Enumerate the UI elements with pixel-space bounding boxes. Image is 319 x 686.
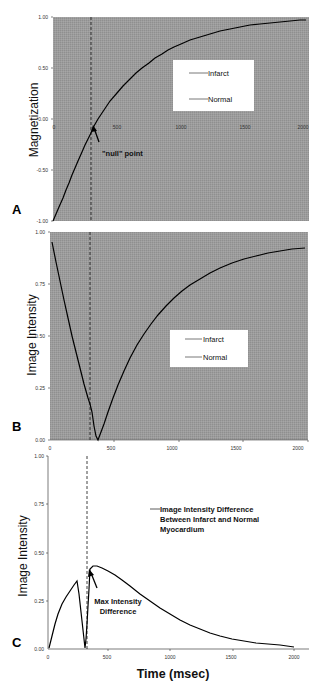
max-difference-annotation: Max Intensity Difference bbox=[88, 569, 143, 616]
chart-c-xtick: 0 bbox=[47, 654, 50, 660]
chart-b-xtick: 0 bbox=[49, 445, 52, 451]
chart-c-ylabel: Image Intensity bbox=[16, 515, 30, 596]
null-point-label: "null" point bbox=[102, 149, 143, 158]
chart-b-xtick: 1500 bbox=[230, 445, 241, 451]
chart-c-ytick: 0.75 bbox=[34, 501, 44, 507]
chart-c-ytick: 1.00 bbox=[34, 453, 44, 459]
max-diff-label-2: Difference bbox=[100, 607, 137, 616]
chart-a: 1.00 0.50 0.00 -0.50 -1.00 0 500 1000 15… bbox=[12, 14, 309, 224]
chart-b-xtick: 500 bbox=[107, 445, 116, 451]
chart-a-ytick: 0.50 bbox=[38, 65, 48, 71]
chart-a-ytick: 1.00 bbox=[38, 14, 48, 20]
panel-label-c: C bbox=[12, 635, 22, 650]
chart-a-ytick: -0.50 bbox=[37, 167, 49, 173]
legend-c-line1: Image Intensity Difference bbox=[160, 505, 253, 514]
chart-a-ytick: -1.00 bbox=[37, 218, 49, 224]
legend-normal: Normal bbox=[203, 353, 228, 362]
chart-c-ytick: 0.00 bbox=[34, 646, 44, 652]
chart-c-xtick: 500 bbox=[103, 654, 112, 660]
chart-b-xtick: 2000 bbox=[292, 445, 303, 451]
chart-c-curve-difference bbox=[49, 566, 294, 648]
panel-label-b: B bbox=[12, 419, 21, 434]
legend-normal: Normal bbox=[208, 95, 233, 104]
chart-c: 1.00 0.75 0.50 0.25 0.00 0 500 1000 1500… bbox=[12, 453, 309, 681]
chart-c-xtick: 1500 bbox=[225, 654, 236, 660]
legend-infarct: Infarct bbox=[208, 69, 230, 78]
chart-c-ytick: 0.25 bbox=[34, 598, 44, 604]
chart-a-legend: Infarct Normal bbox=[173, 60, 254, 111]
chart-a-xtick: 2000 bbox=[297, 124, 308, 130]
max-diff-label-1: Max Intensity bbox=[94, 597, 142, 606]
x-axis-title: Time (msec) bbox=[137, 667, 210, 681]
chart-c-xtick: 2000 bbox=[288, 654, 299, 660]
arrow-icon bbox=[88, 569, 94, 577]
chart-a-xtick: 0 bbox=[53, 124, 56, 130]
chart-a-xtick: 1000 bbox=[175, 124, 186, 130]
chart-b-ylabel: Image Intensity bbox=[25, 294, 39, 375]
legend-c-line3: Myocardium bbox=[160, 525, 205, 534]
chart-b-x-ticks: 0 500 1000 1500 2000 bbox=[49, 440, 308, 451]
legend-c-line2: Between Infarct and Normal bbox=[160, 515, 259, 524]
chart-b-ytick: 0.25 bbox=[35, 385, 45, 391]
chart-a-ylabel: Magnetization bbox=[27, 83, 41, 158]
legend-infarct: Infarct bbox=[203, 335, 225, 344]
chart-b-ytick: 0.75 bbox=[35, 281, 45, 287]
chart-b: 1.00 0.75 0.50 0.25 0.00 0 500 1000 1500… bbox=[12, 229, 308, 451]
chart-c-xtick: 1000 bbox=[164, 654, 175, 660]
chart-b-ytick: 0.00 bbox=[35, 437, 45, 443]
figure: 1.00 0.50 0.00 -0.50 -1.00 0 500 1000 15… bbox=[0, 0, 319, 686]
chart-b-ytick: 1.00 bbox=[35, 229, 45, 235]
chart-b-legend: Infarct Normal bbox=[170, 330, 248, 367]
chart-a-xtick: 500 bbox=[113, 124, 122, 130]
chart-b-xtick: 1000 bbox=[166, 445, 177, 451]
chart-a-xtick: 1500 bbox=[239, 124, 250, 130]
panel-label-a: A bbox=[12, 202, 22, 217]
chart-c-legend: Image Intensity Difference Between Infar… bbox=[150, 505, 259, 534]
chart-c-y-ticks: 1.00 0.75 0.50 0.25 0.00 bbox=[34, 453, 48, 652]
chart-c-ytick: 0.50 bbox=[34, 550, 44, 556]
chart-c-x-ticks: 0 500 1000 1500 2000 bbox=[47, 649, 300, 660]
